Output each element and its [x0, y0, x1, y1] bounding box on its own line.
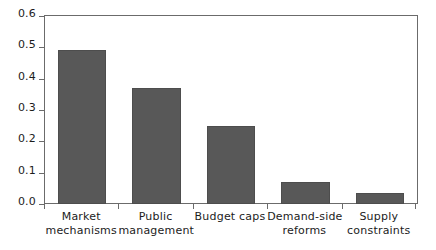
x-label-supply-constraints: Supply constraints — [342, 210, 416, 238]
x-axis-labels: Market mechanisms Public management Budg… — [44, 210, 418, 250]
x-label-line-1: Market — [44, 210, 118, 224]
x-label-public-management: Public management — [118, 210, 192, 238]
x-label-line-1: Supply — [342, 210, 416, 224]
bar-slot-supply-constraints — [356, 16, 404, 204]
x-label-line-2: management — [118, 224, 192, 238]
x-label-demand-side-reforms: Demand-side reforms — [267, 210, 341, 238]
bar-demand-side-reforms — [281, 182, 329, 204]
x-tick-mark-5 — [415, 204, 416, 209]
bar-slot-demand-side-reforms — [281, 16, 329, 204]
bar-slot-public-management — [132, 16, 180, 204]
x-tick-mark-2 — [193, 204, 194, 209]
x-label-line-1: Demand-side — [267, 210, 341, 224]
x-label-market-mechanisms: Market mechanisms — [44, 210, 118, 238]
x-label-line-2: reforms — [267, 224, 341, 238]
bar-public-management — [132, 88, 180, 204]
x-label-line-2: mechanisms — [44, 224, 118, 238]
bar-supply-constraints — [356, 193, 404, 204]
y-tick-label-2: 0.2 — [18, 133, 36, 144]
x-tick-mark-1 — [118, 204, 119, 209]
x-label-budget-caps: Budget caps — [193, 210, 267, 224]
y-tick-label-5: 0.5 — [18, 39, 36, 50]
x-label-line-2: constraints — [342, 224, 416, 238]
bars-layer — [45, 16, 417, 204]
y-tick-label-3: 0.3 — [18, 102, 36, 113]
y-tick-label-4: 0.4 — [18, 71, 36, 82]
y-tick-label-0: 0.0 — [18, 196, 36, 207]
bar-chart: 0.0 0.1 0.2 0.3 0.4 0.5 0.6 — [0, 0, 436, 250]
bar-slot-market-mechanisms — [58, 16, 106, 204]
x-label-line-1: Budget caps — [193, 210, 267, 224]
x-tick-mark-0 — [44, 204, 45, 209]
bar-slot-budget-caps — [207, 16, 255, 204]
x-label-line-1: Public — [118, 210, 192, 224]
x-tick-mark-3 — [267, 204, 268, 209]
y-axis: 0.0 0.1 0.2 0.3 0.4 0.5 0.6 — [0, 0, 44, 250]
y-tick-label-1: 0.1 — [18, 165, 36, 176]
y-tick-label-6: 0.6 — [18, 8, 36, 19]
x-tick-mark-4 — [342, 204, 343, 209]
bar-market-mechanisms — [58, 50, 106, 204]
bar-budget-caps — [207, 126, 255, 204]
